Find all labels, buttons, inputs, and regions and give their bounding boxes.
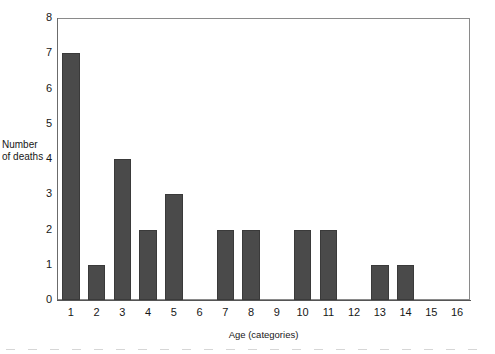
x-axis-tick-label: 16 <box>444 306 470 322</box>
bar-slot <box>367 18 393 300</box>
x-axis-tick-label: 2 <box>84 306 110 322</box>
x-axis-tick-label: 1 <box>58 306 84 322</box>
bar <box>88 265 106 300</box>
bar-series <box>58 18 470 300</box>
bar-slot <box>238 18 264 300</box>
bar-slot <box>187 18 213 300</box>
x-axis-tick-label: 10 <box>290 306 316 322</box>
bar-slot <box>84 18 110 300</box>
bar <box>371 265 389 300</box>
bar-slot <box>316 18 342 300</box>
bar-slot <box>290 18 316 300</box>
x-axis-tick-label: 13 <box>367 306 393 322</box>
bar-slot <box>58 18 84 300</box>
bar-slot <box>264 18 290 300</box>
bar-slot <box>393 18 419 300</box>
x-axis-tick-label: 4 <box>135 306 161 322</box>
x-axis-tick-label: 5 <box>161 306 187 322</box>
y-axis-title-line-2: of deaths <box>2 151 49 163</box>
x-axis-tick-label: 6 <box>187 306 213 322</box>
y-axis-tick-label: 3 <box>0 188 52 199</box>
x-axis-tick-label: 14 <box>393 306 419 322</box>
bar-slot <box>341 18 367 300</box>
bar <box>217 230 235 301</box>
x-axis-tick-label: 8 <box>238 306 264 322</box>
y-axis-tick-label: 1 <box>0 259 52 270</box>
y-axis-tick-label: 6 <box>0 83 52 94</box>
x-axis-tick-label: 11 <box>316 306 342 322</box>
bar <box>114 159 132 300</box>
y-axis-tick-label: 5 <box>0 118 52 129</box>
scan-artifact-line <box>6 349 489 350</box>
bar-slot <box>213 18 239 300</box>
x-axis-tick-label: 12 <box>341 306 367 322</box>
x-axis-tick-label: 3 <box>110 306 136 322</box>
y-axis-tick-label: 2 <box>0 224 52 235</box>
y-axis-title: Number of deaths <box>2 139 49 162</box>
bar <box>165 194 183 300</box>
x-axis-tick-label: 15 <box>419 306 445 322</box>
bar <box>62 53 80 300</box>
y-axis-title-line-1: Number <box>2 139 49 151</box>
bar-slot <box>110 18 136 300</box>
y-axis-tick-label: 7 <box>0 47 52 58</box>
x-axis-tick-labels: 12345678910111213141516 <box>58 306 470 322</box>
x-axis-tick-label: 9 <box>264 306 290 322</box>
x-axis-title: Age (categories) <box>57 329 470 340</box>
bar <box>294 230 312 301</box>
bar <box>242 230 260 301</box>
y-axis-tick-label: 0 <box>0 294 52 305</box>
bar-chart-figure: 012345678 Number of deaths 1234567891011… <box>0 0 495 354</box>
x-axis-line <box>57 300 471 301</box>
bar-slot <box>135 18 161 300</box>
y-axis-tick-label: 8 <box>0 12 52 23</box>
bar <box>139 230 157 301</box>
bar <box>320 230 338 301</box>
bar-slot <box>161 18 187 300</box>
bar-slot <box>444 18 470 300</box>
x-axis-tick-label: 7 <box>213 306 239 322</box>
bar <box>397 265 415 300</box>
bar-slot <box>419 18 445 300</box>
